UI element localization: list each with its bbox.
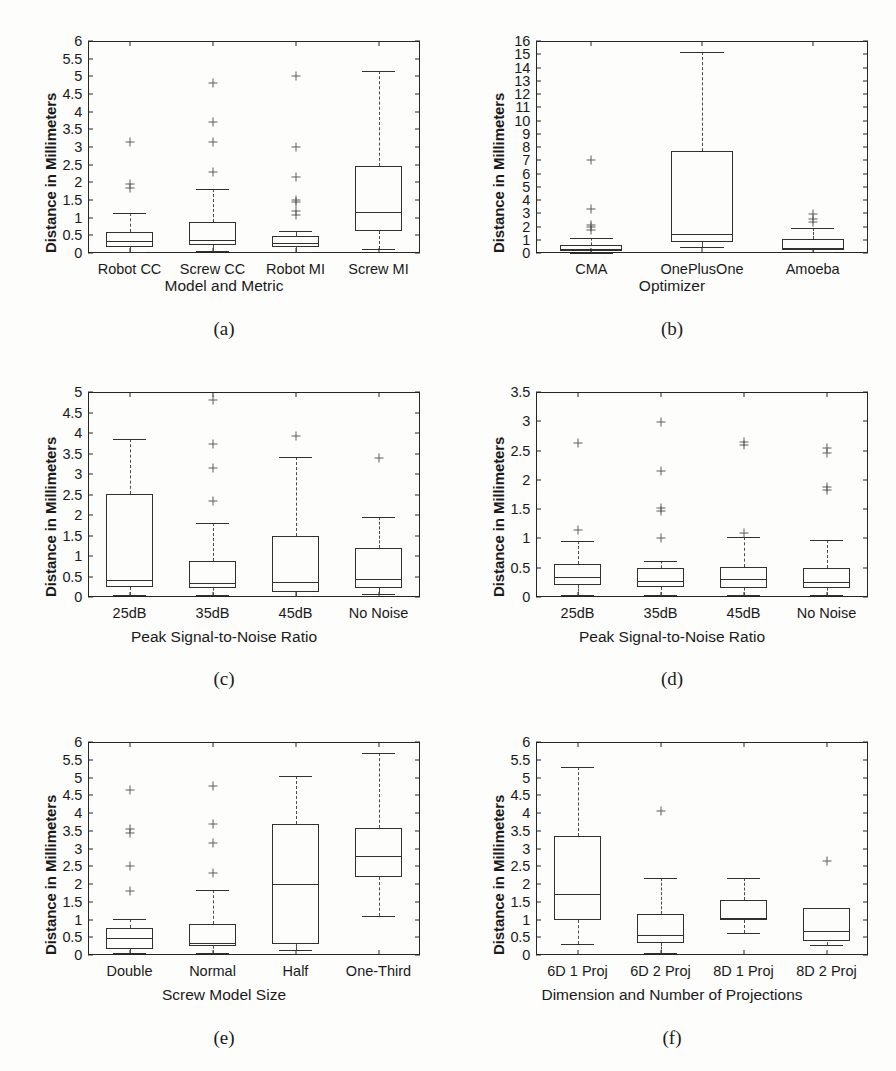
whisker-cap-upper: [279, 776, 312, 777]
boxplot-25db: [88, 392, 420, 597]
ylabel-d: Distance in Millimeters: [490, 437, 507, 597]
boxplot-25db: [536, 392, 868, 597]
box-iqr: [355, 166, 401, 231]
ytick-mark: [88, 742, 93, 743]
box-iqr: [272, 236, 318, 247]
xtick-label-no-noise: No Noise: [349, 606, 409, 621]
whisker-cap-lower: [570, 253, 613, 254]
xtick-mark: [826, 592, 827, 597]
xtick-mark: [660, 392, 661, 397]
whisker-cap-lower: [680, 247, 723, 248]
subcaption-c: (c): [0, 668, 448, 690]
outlier-marker: [573, 438, 582, 447]
box-iqr: [671, 151, 733, 242]
xtick-mark: [743, 950, 744, 955]
xtick-label-screw-cc: Screw CC: [180, 262, 245, 277]
whisker-cap-upper: [279, 231, 312, 232]
outlier-marker: [656, 503, 665, 512]
ytick-label: 3.5: [62, 446, 82, 461]
whisker-cap-upper: [362, 753, 395, 754]
whisker-cap-upper: [644, 561, 677, 562]
ytick-mark: [415, 866, 420, 867]
outlier-marker: [656, 534, 665, 543]
ytick-label: 2.5: [62, 487, 82, 502]
outlier-marker: [739, 440, 748, 449]
xtick-mark: [129, 950, 130, 955]
outlier-marker: [808, 217, 817, 226]
box-iqr: [272, 824, 318, 945]
ytick-mark: [863, 884, 868, 885]
box-median: [560, 249, 622, 250]
ytick-mark: [536, 239, 541, 240]
plot-area-c: 00.511.522.533.544.55: [88, 392, 420, 597]
ytick-mark: [863, 919, 868, 920]
ytick-mark: [536, 160, 541, 161]
ytick-mark: [536, 173, 541, 174]
panel-c: 00.511.522.533.544.5525dB35dB45dBNo Nois…: [0, 0, 896, 1071]
boxplot-cma: [536, 41, 868, 253]
ytick-label: 1: [74, 549, 82, 564]
ytick-label: 0.5: [62, 930, 82, 945]
ytick-label: 4: [74, 104, 82, 119]
box-iqr: [803, 568, 849, 589]
xtick-mark: [702, 41, 703, 46]
ytick-label: 3.5: [510, 385, 530, 400]
boxplot-amoeba: [536, 41, 868, 253]
xtick-mark: [812, 41, 813, 46]
whisker-cap-upper: [791, 228, 834, 229]
outlier-marker: [125, 137, 134, 146]
xtick-label-oneplusone: OnePlusOne: [660, 262, 743, 277]
ytick-mark: [536, 795, 541, 796]
plot-area-e: 00.511.522.533.544.555.56: [88, 742, 420, 955]
whisker-cap-upper: [810, 908, 843, 909]
ytick-mark: [536, 759, 541, 760]
ytick-mark: [536, 200, 541, 201]
box-median: [803, 582, 849, 583]
xtick-label-35db: 35dB: [196, 606, 230, 621]
ytick-mark: [88, 795, 93, 796]
ylabel-a: Distance in Millimeters: [42, 93, 59, 253]
whisker-lower: [296, 247, 297, 252]
box-iqr: [720, 900, 766, 920]
ytick-label: 5: [74, 770, 82, 785]
ytick-mark: [88, 433, 93, 434]
outlier-marker: [656, 507, 665, 516]
axes-frame-e: [88, 742, 420, 955]
subcaption-e: (e): [0, 1027, 448, 1049]
ytick-label: 3: [522, 206, 530, 221]
ytick-label: 2.5: [510, 859, 530, 874]
box-iqr: [637, 568, 683, 587]
ytick-label: 2.5: [62, 859, 82, 874]
boxplot-no-noise: [88, 392, 420, 597]
ytick-mark: [536, 133, 541, 134]
whisker-lower: [827, 588, 828, 594]
ytick-label: 6: [522, 735, 530, 750]
outlier-marker: [656, 807, 665, 816]
xtick-mark: [702, 248, 703, 253]
outlier-marker: [739, 437, 748, 446]
ytick-mark: [536, 41, 541, 42]
ytick-label: 6: [74, 735, 82, 750]
boxplot-45db: [88, 392, 420, 597]
ytick-label: 10: [514, 113, 530, 128]
whisker-cap-lower: [561, 944, 594, 945]
xlabel-e: Screw Model Size: [0, 986, 448, 1004]
whisker-cap-upper: [196, 523, 229, 524]
ytick-mark: [415, 147, 420, 148]
ytick-mark: [536, 213, 541, 214]
ytick-label: 5.5: [62, 51, 82, 66]
box-iqr: [355, 548, 401, 588]
ytick-label: 1.5: [62, 528, 82, 543]
xtick-label-6d-1-proj: 6D 1 Proj: [547, 964, 607, 979]
outlier-marker: [291, 72, 300, 81]
plot-area-a: 00.511.522.533.544.555.56: [88, 41, 420, 253]
whisker-cap-upper: [362, 517, 395, 518]
outlier-marker: [208, 463, 217, 472]
ytick-mark: [88, 94, 93, 95]
ytick-mark: [415, 848, 420, 849]
ytick-label: 1: [74, 210, 82, 225]
outlier-marker: [208, 819, 217, 828]
xtick-mark: [129, 742, 130, 747]
xtick-mark: [826, 742, 827, 747]
ytick-label: 2: [74, 877, 82, 892]
